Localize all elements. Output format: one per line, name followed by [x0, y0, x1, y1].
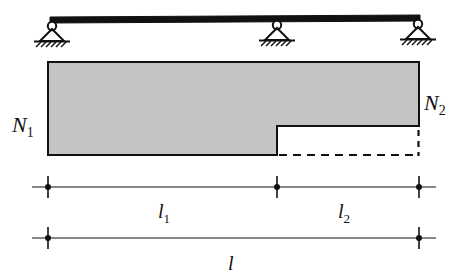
beam-bar — [50, 15, 420, 23]
dimension-tick-middle-upper — [274, 176, 280, 198]
stepped-section — [48, 62, 419, 156]
engineering-figure: N1 N2 l1 l2 — [0, 0, 464, 278]
label-n1: N1 — [11, 112, 34, 140]
label-l2: l2 — [338, 200, 350, 226]
ground-hatching-icon — [261, 41, 291, 46]
beam-assembly — [34, 15, 436, 47]
middle-support — [259, 21, 295, 46]
label-n2: N2 — [423, 90, 446, 118]
label-l1: l1 — [158, 200, 170, 226]
ground-hatching-icon — [402, 40, 432, 45]
dimension-tick-left-upper — [45, 176, 51, 198]
dimension-lines: l1 l2 l — [32, 176, 436, 274]
dimension-tick-left-lower — [45, 227, 51, 249]
right-support — [400, 20, 436, 45]
figure-canvas: N1 N2 l1 l2 — [0, 0, 464, 278]
dimension-tick-right-upper — [416, 176, 422, 198]
section-outline — [48, 62, 419, 155]
left-support — [34, 22, 70, 47]
label-l-total: l — [228, 252, 234, 274]
ground-hatching-icon — [36, 42, 66, 47]
dimension-tick-right-lower — [416, 227, 422, 249]
